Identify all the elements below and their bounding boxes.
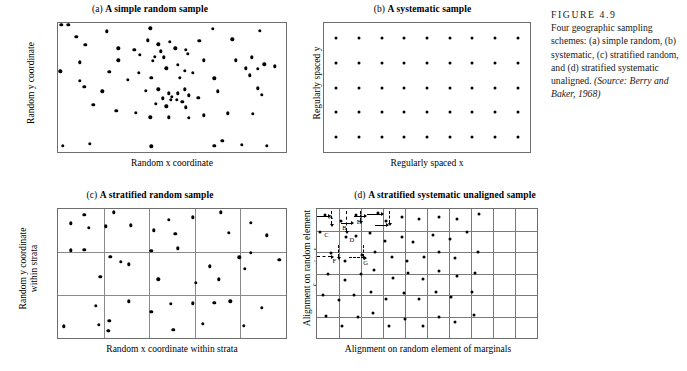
data-point [418, 218, 421, 221]
data-point [75, 35, 78, 38]
data-point [455, 275, 458, 278]
data-point [151, 59, 154, 62]
data-point [187, 94, 190, 97]
data-point [176, 92, 179, 95]
data-point [197, 96, 200, 99]
data-point [202, 59, 205, 62]
data-point [226, 112, 229, 115]
marginal-arrow-9 [338, 245, 339, 257]
data-point [324, 315, 327, 318]
data-point [353, 293, 356, 296]
data-point [228, 300, 231, 303]
data-point [471, 37, 474, 40]
grid-line-horizontal [317, 231, 537, 232]
data-point [251, 112, 254, 115]
data-point [133, 48, 136, 51]
panel-b-plot [323, 22, 531, 153]
data-point [387, 325, 390, 328]
data-point [191, 71, 194, 74]
data-point [98, 275, 101, 278]
data-point [212, 144, 215, 147]
data-point [273, 65, 276, 68]
marginal-arrow-6 [346, 211, 347, 231]
data-point [174, 46, 177, 49]
marginal-arrow-11 [317, 256, 331, 257]
data-point [450, 295, 453, 298]
data-point [341, 324, 344, 327]
data-point [256, 67, 259, 70]
marginal-arrow-1 [341, 223, 353, 224]
data-point [358, 135, 361, 138]
data-point [88, 142, 91, 145]
data-point [106, 329, 109, 332]
data-point [358, 86, 361, 89]
data-point [438, 251, 441, 254]
annotation-label-c: C [324, 230, 328, 237]
data-point [277, 258, 280, 261]
data-point [403, 111, 406, 114]
data-point [194, 281, 197, 284]
data-point [400, 236, 403, 239]
data-point [117, 46, 120, 49]
data-point [87, 226, 90, 229]
data-point [403, 37, 406, 40]
data-point [217, 278, 220, 281]
data-point [167, 218, 170, 221]
data-point [108, 70, 111, 73]
data-point [453, 320, 456, 323]
strata-gridline-vertical [240, 209, 241, 338]
data-point [240, 143, 243, 146]
data-point [476, 251, 479, 254]
data-point [343, 278, 346, 281]
marginal-arrow-4 [375, 225, 388, 226]
data-point [83, 213, 86, 216]
data-point [191, 216, 194, 219]
data-point [243, 267, 246, 270]
data-point [165, 105, 168, 108]
data-point [471, 61, 474, 64]
panel-a-tag: (a) [92, 4, 103, 14]
data-point [431, 234, 434, 237]
data-point [114, 109, 117, 112]
marginal-arrow-12 [349, 257, 364, 258]
strata-gridline-vertical [195, 209, 196, 338]
data-point [104, 225, 107, 228]
data-point [477, 212, 480, 215]
panel-c-ylabel-line1: Random y coordinate [18, 228, 28, 310]
data-point [438, 315, 441, 318]
data-point [216, 90, 219, 93]
panel-b-tag: (b) [374, 4, 385, 14]
data-point [448, 135, 451, 138]
data-point [335, 61, 338, 64]
data-point [183, 69, 186, 72]
data-point [146, 39, 149, 42]
data-point [126, 78, 129, 81]
data-point [176, 63, 179, 66]
data-point [67, 23, 70, 26]
panel-d-title: (d) A stratified systematic unaligned sa… [300, 190, 590, 200]
panel-c-title: (c) A stratified random sample [0, 190, 300, 200]
data-point [327, 272, 330, 275]
data-point [343, 259, 346, 262]
marginal-arrow-8 [389, 211, 390, 223]
data-point [202, 114, 205, 117]
data-point [78, 61, 81, 64]
data-point [380, 111, 383, 114]
data-point [165, 66, 168, 69]
data-point [493, 37, 496, 40]
panel-d-tag: (d) [354, 190, 365, 200]
data-point [516, 135, 519, 138]
data-point [380, 86, 383, 89]
data-point [391, 277, 394, 280]
data-point [385, 298, 388, 301]
strata-gridline-vertical [149, 209, 150, 338]
data-point [184, 106, 187, 109]
annotation-label-d: D [350, 235, 355, 242]
data-point [448, 111, 451, 114]
data-point [150, 76, 153, 79]
data-point [94, 304, 97, 307]
data-point [208, 265, 211, 268]
data-point [385, 219, 388, 222]
figure-number: FIGURE 4.9 [551, 8, 683, 21]
panel-d-xlabel: Alignment on random element of marginals [306, 344, 550, 354]
